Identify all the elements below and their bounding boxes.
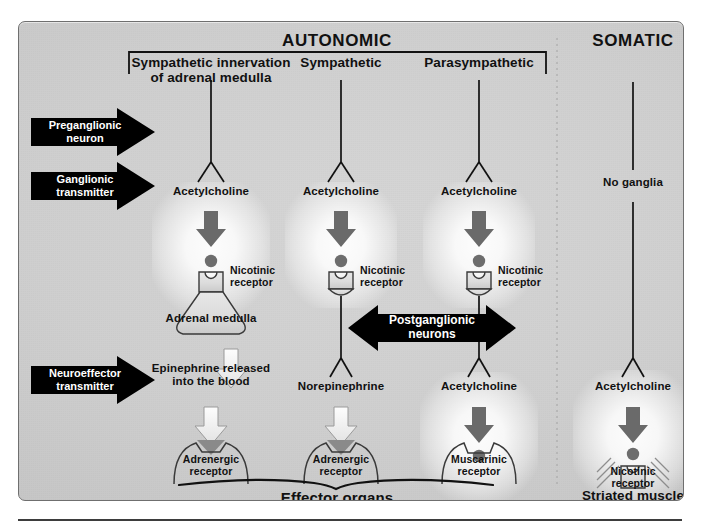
- ganglionic-transmitter-arrow: Ganglionic transmitter: [31, 162, 155, 210]
- col4-no-ganglia-label: No ganglia: [603, 176, 663, 189]
- col1-effector-receptor-label: Adrenergic receptor: [183, 454, 239, 478]
- col3-ganglionic-transmitter-label: Acetylcholine: [441, 185, 517, 198]
- panel-texture: [19, 22, 683, 500]
- col4-vesicle-dot: [627, 448, 639, 460]
- diagram-vector-layer: [19, 22, 683, 500]
- col3-neuroeffector-arrow: [464, 407, 494, 443]
- col2-neuroeffector-transmitter-label: Norepinephrine: [298, 380, 384, 393]
- col3-preganglionic-axon: [466, 80, 492, 182]
- col2-nicotinic-receptor-shape: [329, 272, 353, 295]
- col2-ganglionic-transmitter-label: Acetylcholine: [303, 185, 379, 198]
- effector-organs-label: Effector organs: [281, 490, 393, 501]
- col2-transmitter-arrow: [326, 211, 356, 247]
- col2-preganglionic-axon: [328, 80, 354, 182]
- neuroeffector-transmitter-arrow: Neuroeffector transmitter: [31, 356, 155, 404]
- col1-ganglionic-transmitter-label: Acetylcholine: [173, 185, 249, 198]
- col3-nicotinic-receptor-shape: [467, 272, 491, 295]
- neuroeffector-transmitter-label: Neuroeffector transmitter: [37, 356, 133, 404]
- col1-nicotinic-receptor-shape: [199, 272, 223, 292]
- adrenal-medulla-label: Adrenal medulla: [166, 312, 257, 325]
- col1-preganglionic-axon: [198, 80, 224, 182]
- synapse-glow-col2-ganglion: [285, 182, 397, 308]
- column-label-sympathetic: Sympathetic: [300, 55, 381, 70]
- col1-ganglionic-receptor-label: Nicotinic receptor: [230, 265, 275, 289]
- preganglionic-neuron-arrow: Preganglionic neuron: [31, 108, 155, 156]
- preganglionic-neuron-label: Preganglionic neuron: [37, 108, 133, 156]
- col4-neuroeffector-transmitter-label: Acetylcholine: [595, 380, 671, 393]
- synapse-glow-col1-ganglion: [152, 182, 270, 312]
- ganglionic-transmitter-label: Ganglionic transmitter: [37, 162, 133, 210]
- header-autonomic: AUTONOMIC: [282, 31, 392, 50]
- col1-transmitter-arrow: [196, 211, 226, 247]
- col1-vesicle-dot: [205, 255, 217, 267]
- col2-vesicle-dot: [335, 255, 347, 267]
- col2-ganglionic-receptor-label: Nicotinic receptor: [360, 265, 405, 289]
- col2-neuroeffector-arrow: [325, 407, 357, 445]
- header-somatic: SOMATIC: [592, 31, 673, 50]
- postganglionic-neurons-arrow: Postganglionic neurons: [348, 305, 516, 351]
- column-label-parasympathetic: Parasympathetic: [424, 55, 534, 70]
- postganglionic-neurons-label: Postganglionic neurons: [348, 305, 516, 351]
- col4-effector-receptor-label: Nicotinic receptor: [610, 466, 655, 490]
- col3-transmitter-arrow: [464, 211, 494, 247]
- col4-motor-axon: [622, 82, 644, 377]
- bottom-divider-rule: [18, 519, 682, 521]
- col3-neuroeffector-transmitter-label: Acetylcholine: [441, 380, 517, 393]
- col1-neuroeffector-transmitter-label: Epinephrine released into the blood: [152, 362, 270, 388]
- col1-neuroeffector-arrow-bottom: [195, 407, 227, 445]
- striated-muscle-label: Striated muscle: [582, 488, 684, 501]
- effector-organs-brace: [179, 480, 493, 489]
- synapse-glow-col3-ganglion: [423, 182, 535, 308]
- diagram-panel: AUTONOMIC SOMATIC Sympathetic innervatio…: [18, 21, 684, 501]
- col3-ganglionic-receptor-label: Nicotinic receptor: [498, 265, 543, 289]
- col3-effector-receptor-label: Muscarinic receptor: [451, 454, 507, 478]
- column-label-sympathetic-adrenal: Sympathetic innervation of adrenal medul…: [131, 55, 290, 85]
- col2-effector-receptor-label: Adrenergic receptor: [313, 454, 369, 478]
- diagram-root: AUTONOMIC SOMATIC Sympathetic innervatio…: [0, 0, 702, 531]
- col3-vesicle-dot: [473, 255, 485, 267]
- col4-neuroeffector-arrow: [618, 407, 648, 443]
